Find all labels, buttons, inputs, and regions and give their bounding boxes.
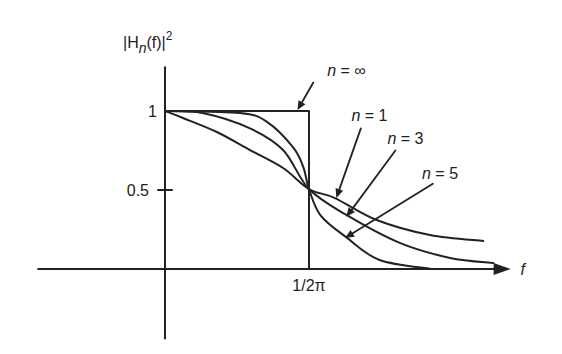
annotation-label: n = 1 [351, 107, 387, 124]
curve-n3 [165, 111, 493, 263]
annotation: n = 3 [346, 130, 423, 217]
curve-ninfinity [165, 111, 309, 269]
annotation-arrow [302, 83, 313, 103]
curve-annotations: n = ∞n = 1n = 3n = 5 [297, 62, 458, 238]
axis-ticks: 10.51/2π [127, 103, 326, 294]
y-label-superscript: 2 [166, 29, 173, 43]
x-tick-label: 1/2π [292, 277, 325, 294]
annotation-label: n = ∞ [327, 62, 366, 79]
y-tick-label: 0.5 [127, 182, 149, 199]
annotation-label: n = 3 [387, 130, 423, 147]
y-tick-label: 1 [148, 103, 157, 120]
annotation: n = 5 [345, 165, 458, 238]
annotation-arrow [352, 151, 396, 210]
x-axis-label: f [521, 261, 527, 278]
annotation: n = ∞ [297, 62, 365, 110]
response-curves [165, 111, 493, 269]
arrowhead-icon [336, 188, 344, 198]
y-label-rest: (f)| [147, 34, 166, 51]
annotation-arrow [339, 128, 360, 189]
butterworth-response-chart: 10.51/2π n = ∞n = 1n = 3n = 5 f |Hn(f)|2 [0, 0, 562, 354]
arrowhead-icon [345, 230, 355, 238]
annotation: n = 1 [336, 107, 388, 198]
axes [38, 67, 510, 338]
annotation-label: n = 5 [422, 165, 458, 182]
x-axis-arrowhead-icon [494, 263, 511, 275]
y-label-subscript: n [139, 40, 147, 56]
y-axis-label: |Hn(f)|2 [123, 29, 173, 56]
y-label-base: |H [123, 34, 139, 51]
